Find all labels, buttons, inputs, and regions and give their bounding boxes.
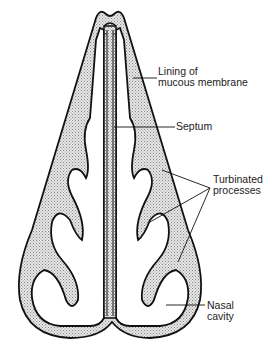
- label-septum: Septum: [176, 121, 212, 132]
- septum: [104, 26, 116, 318]
- label-nasal-cavity: Nasal cavity: [207, 300, 234, 322]
- label-turbinated: Turbinated processes: [213, 174, 263, 196]
- label-lining-line2: mucous membrane: [158, 77, 248, 88]
- label-nasal-cavity-line2: cavity: [207, 311, 234, 322]
- label-turbinated-line2: processes: [213, 185, 263, 196]
- label-lining: Lining of mucous membrane: [158, 66, 248, 88]
